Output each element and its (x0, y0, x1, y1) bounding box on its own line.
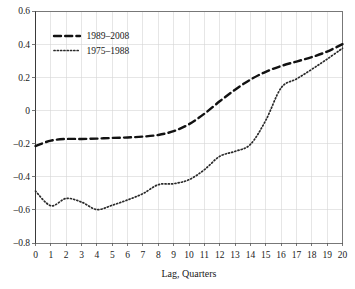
x-tick-label: 16 (276, 250, 286, 260)
legend-label: 1975–1988 (87, 46, 130, 56)
x-tick-label: 7 (141, 250, 146, 260)
chart-figure: 0.60.40.20–0.2–0.4–0.6–0.801234567891011… (0, 0, 355, 289)
x-axis-title: Lag, Quarters (162, 268, 217, 279)
legend-item-2: 1975–1988 (54, 46, 130, 56)
x-tick-label: 11 (200, 250, 209, 260)
x-tick-label: 14 (246, 250, 256, 260)
y-tick-label: –0.8 (12, 238, 30, 248)
line-chart: 0.60.40.20–0.2–0.4–0.6–0.801234567891011… (0, 0, 355, 289)
y-tick-label: –0.2 (12, 139, 30, 149)
x-tick-label: 10 (184, 250, 194, 260)
x-tick-label: 12 (215, 250, 225, 260)
y-tick-label: 0.4 (18, 40, 30, 50)
x-tick-label: 20 (338, 250, 348, 260)
x-tick-label: 18 (307, 250, 317, 260)
y-tick-label: 0 (25, 106, 30, 116)
y-tick-label: 0.2 (18, 73, 30, 83)
legend-label: 1989–2008 (87, 31, 130, 41)
gridlines (36, 11, 343, 243)
legend: 1989–20081975–1988 (54, 31, 130, 56)
x-tick-label: 17 (292, 250, 302, 260)
x-axis: 01234567891011121314151617181920 (33, 243, 347, 260)
x-tick-label: 6 (125, 250, 130, 260)
x-tick-label: 4 (95, 250, 100, 260)
x-tick-label: 15 (261, 250, 271, 260)
x-tick-label: 13 (230, 250, 240, 260)
y-tick-label: –0.4 (12, 172, 30, 182)
x-tick-label: 1 (48, 250, 53, 260)
x-tick-label: 2 (64, 250, 69, 260)
y-axis: 0.60.40.20–0.2–0.4–0.6–0.8 (12, 6, 35, 248)
x-tick-label: 8 (156, 250, 161, 260)
legend-item-1: 1989–2008 (54, 31, 130, 41)
x-tick-label: 19 (322, 250, 332, 260)
x-tick-label: 0 (33, 250, 38, 260)
y-tick-label: –0.6 (12, 205, 30, 215)
x-tick-label: 9 (171, 250, 176, 260)
y-tick-label: 0.6 (18, 6, 30, 16)
x-tick-label: 5 (110, 250, 115, 260)
x-tick-label: 3 (79, 250, 84, 260)
